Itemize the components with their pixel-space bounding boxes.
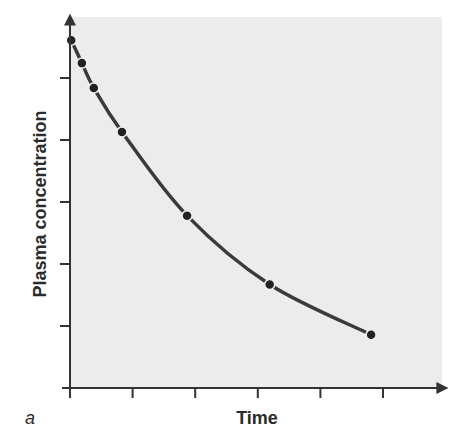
data-point-marker bbox=[182, 211, 192, 221]
chart: Plasma concentration Time a bbox=[0, 0, 462, 442]
data-point-marker bbox=[265, 279, 275, 289]
data-point-marker bbox=[77, 58, 87, 68]
x-ticks bbox=[70, 388, 383, 398]
panel-label: a bbox=[25, 408, 35, 428]
data-point-marker bbox=[366, 330, 376, 340]
y-ticks bbox=[60, 78, 70, 326]
x-axis-label: Time bbox=[236, 408, 278, 428]
data-point-marker bbox=[89, 83, 99, 93]
data-point-marker bbox=[66, 35, 76, 45]
y-axis-label: Plasma concentration bbox=[30, 110, 50, 297]
plot-area bbox=[70, 17, 442, 388]
data-point-marker bbox=[117, 127, 127, 137]
